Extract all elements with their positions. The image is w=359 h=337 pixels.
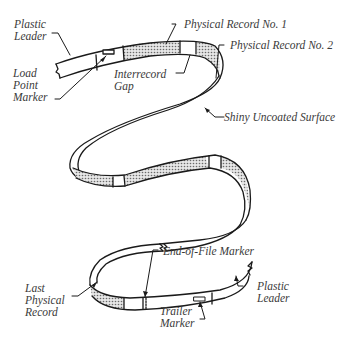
middle-record-region-c [221,156,250,212]
label-line: Point [13,79,48,91]
label-plastic-leader-end: Plastic Leader [257,280,290,304]
label-physical-record-1: Physical Record No. 1 [184,18,287,30]
label-interrecord-gap: Interrecord Gap [114,68,166,92]
label-line: Load [13,67,48,79]
label-last-physical-record: Last Physical Record [25,282,65,318]
label-line: Record [25,306,65,318]
physical-record-1-region [123,41,180,60]
label-physical-record-2: Physical Record No. 2 [230,39,333,51]
label-shiny-uncoated-surface: Shiny Uncoated Surface [224,111,335,123]
label-plastic-leader-start: Plastic Leader [14,18,47,42]
label-load-point-marker: Load Point Marker [13,67,48,103]
label-line: Last [25,282,65,294]
label-line: Gap [114,80,166,92]
label-trailer-marker: Trailer Marker [160,305,195,329]
label-line: Physical [25,294,65,306]
label-line: Marker [160,317,195,329]
label-line: Leader [14,30,47,42]
label-line: Plastic [257,280,290,292]
label-line: Marker [13,91,48,103]
label-line: Plastic [14,18,47,30]
label-line: Trailer [160,305,195,317]
magnetic-tape-diagram: Plastic Leader Load Point Marker Physica… [0,0,359,337]
label-line: Interrecord [114,68,166,80]
label-line: Leader [257,292,290,304]
label-end-of-file-marker: End-of-File Marker [163,245,254,257]
